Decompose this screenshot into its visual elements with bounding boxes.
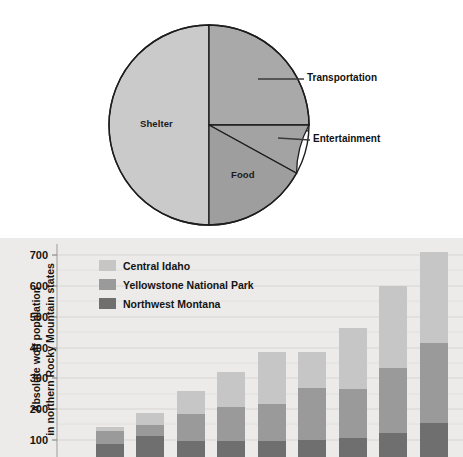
legend-swatch-northwest-montana	[99, 298, 116, 309]
pie-chart-graphic	[0, 0, 463, 238]
y-axis-title-line-2: in northern Rocky Mountain states	[43, 263, 55, 436]
bar-group-6	[298, 352, 326, 457]
legend-item-yellowstone-national-park: Yellowstone National Park	[99, 277, 254, 292]
y-axis-title: Absolute wolf population in northern Roc…	[30, 245, 57, 455]
pie-callout-transportation: Transportation	[307, 72, 377, 83]
legend-label-northwest-montana: Northwest Montana	[123, 298, 220, 310]
bar-chart-panel: 700 600 500 400 300 200 100 Central Idah…	[0, 238, 463, 457]
pie-label-food: Food	[231, 169, 255, 180]
bar-group-9	[420, 252, 448, 457]
y-axis-title-line-1: Absolute wolf population	[30, 287, 42, 412]
legend-swatch-central-idaho	[99, 260, 116, 271]
bar-group-2	[136, 413, 164, 457]
legend-label-central-idaho: Central Idaho	[123, 260, 190, 272]
bar-group-8	[379, 286, 407, 457]
bar-group-1	[96, 427, 124, 457]
legend-item-central-idaho: Central Idaho	[99, 258, 254, 273]
legend-item-northwest-montana: Northwest Montana	[99, 296, 254, 311]
bar-group-7	[339, 328, 367, 457]
legend-swatch-yellowstone-national-park	[99, 279, 116, 290]
bar-group-4	[217, 372, 245, 457]
bar-chart-legend: Central Idaho Yellowstone National Park …	[99, 258, 254, 315]
legend-label-yellowstone-national-park: Yellowstone National Park	[123, 279, 254, 291]
pie-chart-panel: Shelter Food Transportation Entertainmen…	[0, 0, 463, 238]
pie-slice-transportation	[209, 25, 309, 125]
bar-group-5	[258, 352, 286, 457]
y-axis-title-wrap: Absolute wolf population in northern Roc…	[16, 238, 60, 457]
pie-label-shelter: Shelter	[140, 118, 173, 129]
bar-group-3	[177, 391, 205, 457]
pie-callout-entertainment: Entertainment	[313, 133, 380, 144]
